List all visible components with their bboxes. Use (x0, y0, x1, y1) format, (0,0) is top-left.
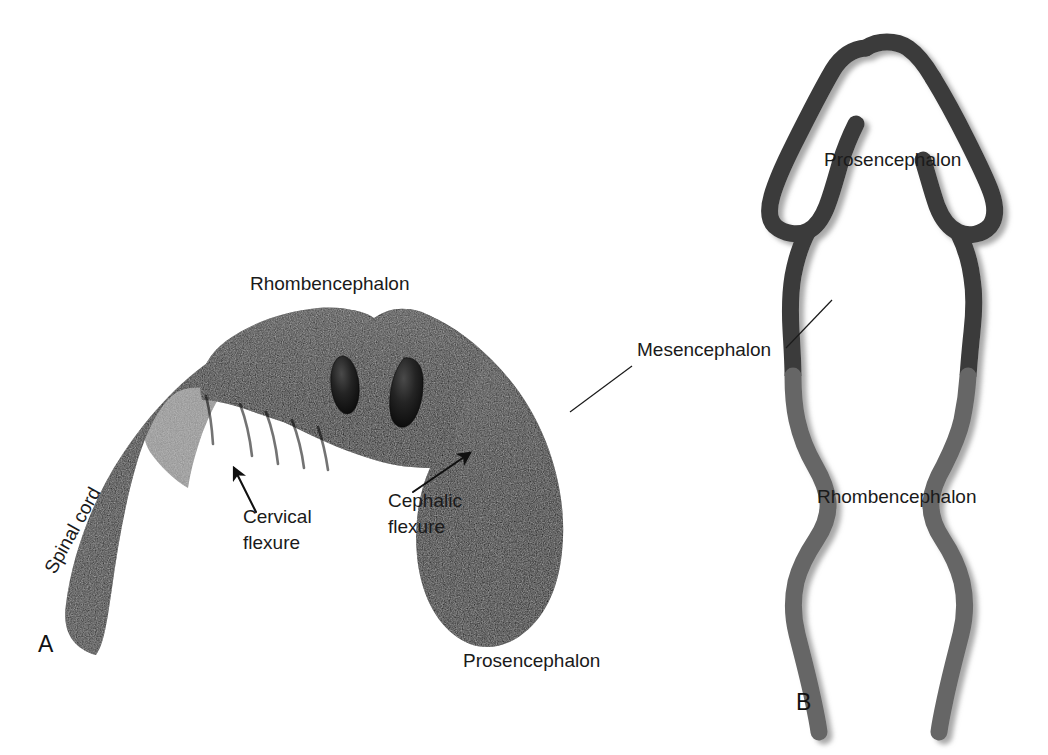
figure-svg: Rhombencephalon Spinal cord Cervical fle… (0, 0, 1048, 755)
panel-letter-a: A (38, 631, 54, 657)
label-cervical-flexure-line2: flexure (243, 532, 300, 553)
label-rhombencephalon-a: Rhombencephalon (250, 273, 410, 294)
background (0, 0, 1048, 755)
panel-letter-b: B (796, 689, 811, 715)
label-mesencephalon: Mesencephalon (637, 339, 771, 360)
label-cervical-flexure-line1: Cervical (243, 506, 312, 527)
figure-canvas: Rhombencephalon Spinal cord Cervical fle… (0, 0, 1048, 755)
label-prosencephalon-b: Prosencephalon (824, 149, 961, 170)
label-cephalic-flexure-line1: Cephalic (388, 490, 462, 511)
label-prosencephalon-a: Prosencephalon (463, 650, 600, 671)
label-rhombencephalon-b: Rhombencephalon (817, 486, 977, 507)
label-cephalic-flexure-line2: flexure (388, 516, 445, 537)
